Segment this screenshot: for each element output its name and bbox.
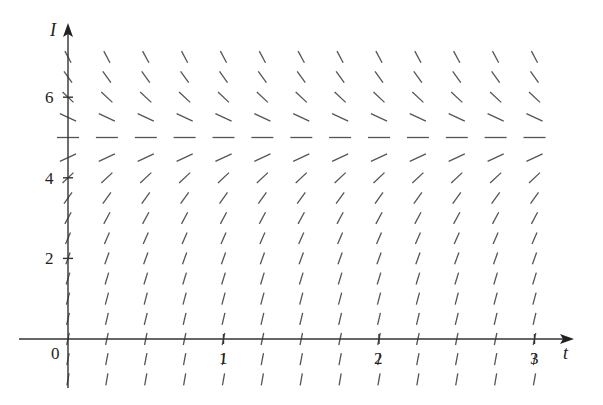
slope-segment xyxy=(260,232,265,244)
slope-segment xyxy=(222,373,224,385)
slope-segment xyxy=(215,114,231,122)
slope-segment xyxy=(260,253,264,265)
slope-segment xyxy=(257,173,268,183)
slope-segment xyxy=(374,173,385,183)
slope-segment xyxy=(377,232,382,244)
slope-segment xyxy=(259,51,265,63)
slope-segment xyxy=(416,293,419,305)
y-tick-label-2: 2 xyxy=(45,250,54,267)
slope-segment xyxy=(140,173,151,183)
slope-segment xyxy=(375,71,383,82)
slope-segment xyxy=(296,173,307,183)
slope-segment xyxy=(531,51,537,63)
slope-segment xyxy=(454,212,460,224)
slope-segment xyxy=(417,353,419,365)
slope-segment xyxy=(495,373,497,385)
slope-segment xyxy=(417,373,419,385)
slope-segment xyxy=(179,173,190,183)
slope-segment xyxy=(183,273,187,285)
x-tick-label-2: 2 xyxy=(374,350,383,367)
slope-segment xyxy=(377,273,381,285)
slope-segment xyxy=(182,212,188,224)
slope-segment xyxy=(299,253,303,265)
slope-segment xyxy=(140,92,151,102)
slope-segment xyxy=(414,71,422,82)
slope-segment xyxy=(293,154,309,162)
slope-segment xyxy=(453,192,461,203)
slope-segment xyxy=(104,212,110,224)
slope-segment xyxy=(454,51,460,63)
y-tick-label-6: 6 xyxy=(45,89,54,106)
slope-segment xyxy=(488,154,504,162)
slope-segment xyxy=(455,253,459,265)
slope-segment xyxy=(494,313,497,325)
slope-segment xyxy=(339,313,342,325)
slope-segment xyxy=(455,313,458,325)
slope-field-plot xyxy=(0,0,603,405)
slope-segment xyxy=(221,232,226,244)
slope-segment xyxy=(374,92,385,102)
slope-segment xyxy=(533,293,536,305)
slope-segment xyxy=(338,253,342,265)
slope-segment xyxy=(451,173,462,183)
slope-segment xyxy=(453,71,461,82)
slope-segment xyxy=(254,114,270,122)
slope-segment xyxy=(222,293,225,305)
slope-segment xyxy=(300,293,303,305)
slope-segment xyxy=(183,253,187,265)
slope-segment xyxy=(296,92,307,102)
slope-segment xyxy=(261,353,263,365)
slope-segment xyxy=(220,192,228,203)
slope-segment xyxy=(183,313,186,325)
slope-segment xyxy=(179,92,190,102)
slope-segment xyxy=(449,154,465,162)
slope-segment xyxy=(144,253,148,265)
slope-segment xyxy=(106,353,108,365)
slope-segment xyxy=(183,293,186,305)
slope-segment xyxy=(531,212,537,224)
slope-segment xyxy=(218,92,229,102)
slope-segment xyxy=(182,51,188,63)
slope-segment xyxy=(415,51,421,63)
slope-segment xyxy=(106,373,108,385)
slope-segment xyxy=(101,92,112,102)
slope-segment xyxy=(300,373,302,385)
slope-segment xyxy=(261,373,263,385)
slope-segment xyxy=(338,232,343,244)
slope-segment xyxy=(254,154,270,162)
slope-segment xyxy=(533,273,537,285)
slope-segment xyxy=(414,192,422,203)
slope-segment xyxy=(138,154,154,162)
slope-segment xyxy=(378,373,380,385)
slope-segment xyxy=(261,313,264,325)
slope-segment xyxy=(220,212,226,224)
slope-segment xyxy=(335,92,346,102)
slope-segment xyxy=(335,173,346,183)
slope-segment xyxy=(338,273,342,285)
slope-segment xyxy=(415,232,420,244)
slope-segment xyxy=(493,232,498,244)
slope-segment xyxy=(142,71,150,82)
slope-segment xyxy=(526,114,542,122)
axis-ticks xyxy=(63,97,535,344)
I-axis-label: I xyxy=(50,21,56,39)
slope-segment xyxy=(377,293,380,305)
slope-segment xyxy=(376,51,382,63)
slope-segment xyxy=(261,273,265,285)
slope-segment xyxy=(526,154,542,162)
slope-segment xyxy=(495,353,497,365)
slope-segment xyxy=(103,192,111,203)
slope-segment xyxy=(104,232,109,244)
slope-segment xyxy=(336,192,344,203)
slope-segment xyxy=(215,154,231,162)
slope-segment xyxy=(332,114,348,122)
slope-segment xyxy=(490,92,501,102)
slope-segment xyxy=(300,313,303,325)
slope-segment xyxy=(454,232,459,244)
slope-segment xyxy=(410,154,426,162)
slope-segment xyxy=(143,232,148,244)
slope-segment xyxy=(143,51,149,63)
slope-segment xyxy=(293,114,309,122)
slope-segment xyxy=(297,71,305,82)
slope-segment xyxy=(99,154,115,162)
